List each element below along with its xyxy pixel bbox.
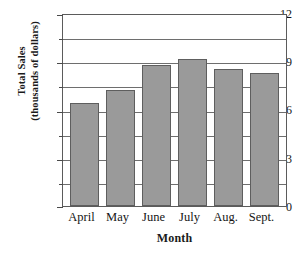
- y-axis-title-line-1: Total Sales: [15, 46, 28, 95]
- bars-layer: [63, 15, 286, 206]
- bar-aug: [214, 69, 243, 206]
- bar-july: [178, 59, 207, 206]
- bar-sept: [250, 73, 279, 207]
- plot-area: [62, 14, 287, 207]
- bar-may: [106, 90, 135, 206]
- bar-chart-figure: Total Sales (thousands of dollars) 12 9 …: [0, 0, 300, 255]
- bar-june: [142, 65, 171, 207]
- bar-april: [70, 103, 99, 206]
- y-tick-0: [57, 207, 63, 208]
- y-axis-title: Total Sales (thousands of dollars): [10, 0, 46, 161]
- x-axis-title: Month: [62, 231, 287, 246]
- y-axis-title-line-2: (thousands of dollars): [28, 21, 41, 121]
- x-tick-label-sept: Sept.: [232, 210, 291, 224]
